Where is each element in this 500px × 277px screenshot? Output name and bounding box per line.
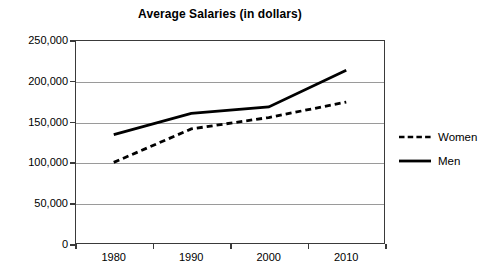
series-line-men	[114, 70, 347, 134]
x-axis-tick-label: 2000	[239, 251, 299, 263]
chart-legend: Women Men	[398, 125, 498, 173]
series-layer	[75, 40, 385, 244]
y-axis-tick-label: 150,000	[28, 116, 68, 128]
line-chart: Average Salaries (in dollars) 050,000100…	[0, 0, 500, 277]
x-axis-tick-label: 2010	[316, 251, 376, 263]
legend-item-women[interactable]: Women	[398, 125, 498, 149]
legend-item-men[interactable]: Men	[398, 149, 498, 173]
solid-line-icon	[398, 155, 432, 167]
y-axis-tick-label: 200,000	[28, 75, 68, 87]
dashed-line-icon	[398, 131, 432, 143]
x-axis-tick-mark	[230, 244, 232, 249]
x-axis-tick-label: 1980	[84, 251, 144, 263]
x-axis-tick-mark	[75, 244, 77, 249]
chart-title: Average Salaries (in dollars)	[0, 7, 440, 21]
x-axis-tick-label: 1990	[161, 251, 221, 263]
legend-label-men: Men	[438, 155, 460, 167]
x-axis-tick-mark	[385, 244, 387, 249]
x-axis-tick-mark	[308, 244, 310, 249]
y-axis-tick-label: 250,000	[28, 34, 68, 46]
legend-label-women: Women	[438, 131, 477, 143]
y-axis-tick-label: 0	[62, 238, 68, 250]
x-axis-tick-mark	[153, 244, 155, 249]
y-axis-tick-label: 50,000	[34, 197, 68, 209]
y-axis-tick-label: 100,000	[28, 156, 68, 168]
